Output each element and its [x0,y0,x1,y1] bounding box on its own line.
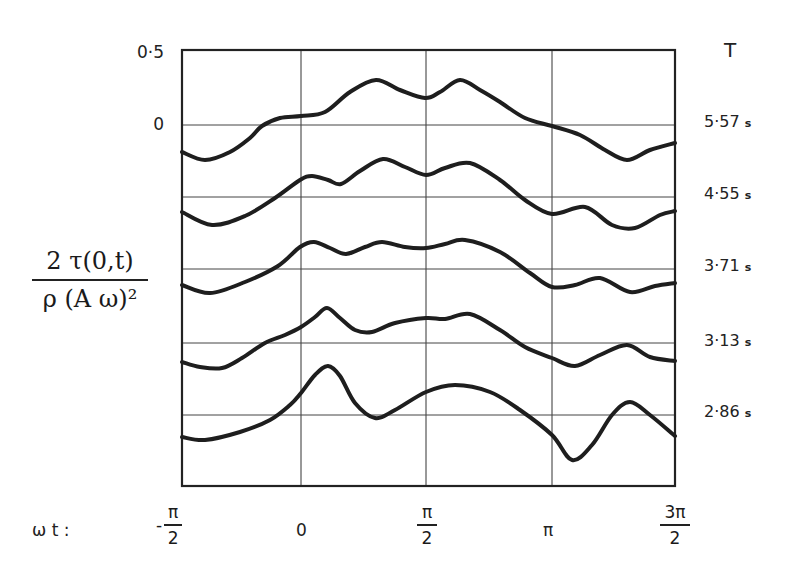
y-tick-label-0: 0 [124,114,164,134]
curve-4-55 [182,159,675,229]
x-tick-pi: π [543,520,553,540]
numerator: π [422,502,432,522]
gridlines [182,50,675,486]
x-tick-three-half-pi: 3π 2 [660,502,690,548]
denominator: 2 [670,528,681,548]
fraction-bar [417,524,437,526]
curve-3-71 [182,240,675,293]
data-curves [182,80,675,460]
fraction-bar [32,279,148,281]
curve-2-86 [182,366,675,460]
y-tick-label-0-5: 0·5 [124,42,164,62]
plot-frame [182,50,675,486]
denominator: 2 [422,528,433,548]
x-tick-half-pi: π 2 [417,502,437,548]
curve-5-57 [182,80,675,160]
series-value: 5·57 [704,112,740,131]
fraction-bar [164,524,182,526]
series-unit: s [745,117,752,130]
y-axis-label-denominator: ρ (A ω)² [43,284,138,314]
series-value: 3·13 [704,331,740,350]
series-label-2-86: 2·86s [704,402,751,421]
y-axis-label: 2 τ(0,t) ρ (A ω)² [32,246,148,314]
series-unit: s [745,336,752,349]
numerator: π [168,502,178,522]
fraction: π 2 [164,502,182,548]
minus-sign: - [156,515,162,535]
x-tick-neg-half-pi: - π 2 [156,502,182,548]
numerator: 3π [664,502,685,522]
x-axis-label: ω t : [32,520,69,540]
series-value: 2·86 [704,402,740,421]
x-tick-zero: 0 [296,520,307,540]
series-unit: s [745,261,752,274]
curve-3-13 [182,308,675,369]
series-unit: s [745,189,752,202]
denominator: 2 [168,528,179,548]
series-label-4-55: 4·55s [704,184,751,203]
series-unit: s [745,407,752,420]
fraction-bar [660,524,690,526]
series-label-5-57: 5·57s [704,112,751,131]
series-label-3-71: 3·71s [704,256,751,275]
legend-title: T [724,38,736,62]
series-value: 4·55 [704,184,740,203]
y-axis-label-numerator: 2 τ(0,t) [46,246,133,276]
series-label-3-13: 3·13s [704,331,751,350]
series-value: 3·71 [704,256,740,275]
